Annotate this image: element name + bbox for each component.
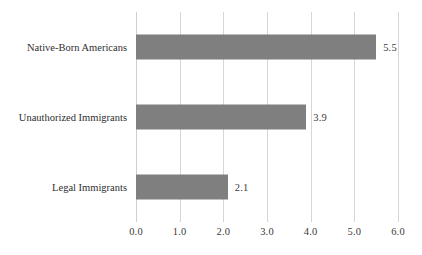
bar-value-label: 2.1 xyxy=(235,182,249,193)
bar-chart: 5.5 3.9 2.1 Native-Born Americans Unauth… xyxy=(0,0,422,255)
bar-unauthorized-immigrants xyxy=(136,105,306,130)
x-tick-label: 6.0 xyxy=(391,226,405,237)
gridline xyxy=(398,12,399,222)
category-axis-labels: Native-Born Americans Unauthorized Immig… xyxy=(0,12,131,222)
x-tick-label: 2.0 xyxy=(216,226,230,237)
plot-area: 5.5 3.9 2.1 xyxy=(136,12,398,222)
x-tick-label: 1.0 xyxy=(173,226,187,237)
bar-value-label: 5.5 xyxy=(383,42,397,53)
value-axis-labels: 0.01.02.03.04.05.06.0 xyxy=(136,226,398,246)
bar-band: 5.5 xyxy=(136,12,398,82)
bar-native-born-americans xyxy=(136,35,376,60)
x-tick-label: 4.0 xyxy=(304,226,318,237)
bar-band: 3.9 xyxy=(136,82,398,152)
bar-value-label: 3.9 xyxy=(313,112,327,123)
category-label: Native-Born Americans xyxy=(27,42,127,53)
category-label: Legal Immigrants xyxy=(52,182,127,193)
x-tick-label: 0.0 xyxy=(129,226,143,237)
x-tick-label: 5.0 xyxy=(347,226,361,237)
bar-band: 2.1 xyxy=(136,152,398,222)
bar-legal-immigrants xyxy=(136,175,228,200)
category-label: Unauthorized Immigrants xyxy=(19,112,127,123)
x-tick-label: 3.0 xyxy=(260,226,274,237)
